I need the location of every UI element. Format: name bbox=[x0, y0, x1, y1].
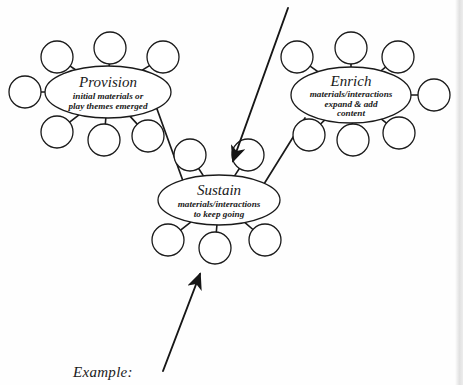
satellite-provision-sat-2[interactable] bbox=[94, 32, 126, 64]
satellite-sustain-sat-4[interactable] bbox=[199, 232, 231, 264]
diagram-page: Provisioninitial materials orplay themes… bbox=[0, 0, 463, 385]
example-caption: Example: bbox=[73, 364, 133, 381]
satellite-provision-sat-4[interactable] bbox=[9, 76, 41, 108]
node-title-sustain: Sustain bbox=[197, 182, 241, 198]
stem-provision-sat-1 bbox=[70, 66, 75, 70]
annotation-arrow-to-sustain-top bbox=[233, 8, 288, 161]
stem-sustain-sat-3 bbox=[181, 222, 191, 230]
satellite-provision-sat-6[interactable] bbox=[88, 124, 120, 156]
satellite-provision-sat-5[interactable] bbox=[41, 116, 73, 148]
stem-sustain-sat-5 bbox=[245, 223, 253, 230]
node-title-provision: Provision bbox=[78, 74, 137, 90]
stem-sustain-sat-4 bbox=[216, 225, 217, 232]
satellite-sustain-sat-2[interactable] bbox=[232, 139, 264, 171]
stem-enrich-sat-7 bbox=[381, 119, 386, 123]
node-title-enrich: Enrich bbox=[330, 73, 372, 89]
node-provision: Provisioninitial materials orplay themes… bbox=[9, 32, 179, 156]
satellite-enrich-sat-7[interactable] bbox=[383, 117, 415, 149]
stem-sustain-sat-1 bbox=[199, 168, 204, 175]
satellite-enrich-sat-1[interactable] bbox=[281, 41, 313, 73]
stem-provision-sat-7 bbox=[130, 116, 137, 124]
satellite-enrich-sat-3[interactable] bbox=[382, 41, 414, 73]
node-desc-provision-1: play themes emerged bbox=[67, 101, 148, 111]
stem-provision-sat-3 bbox=[142, 66, 149, 71]
stem-enrich-sat-1 bbox=[310, 66, 318, 71]
satellite-provision-sat-3[interactable] bbox=[147, 41, 179, 73]
node-sustain: Sustainmaterials/interactionsto keep goi… bbox=[152, 139, 281, 264]
satellite-sustain-sat-5[interactable] bbox=[249, 224, 281, 256]
stem-sustain-sat-2 bbox=[235, 168, 240, 175]
nodes-layer: Provisioninitial materials orplay themes… bbox=[9, 32, 450, 264]
satellite-enrich-sat-4[interactable] bbox=[418, 79, 450, 111]
annotation-arrow-example-to-sustain bbox=[163, 274, 200, 371]
node-desc-enrich-1: expand & add bbox=[324, 99, 377, 109]
node-desc-enrich-2: content bbox=[337, 108, 366, 118]
satellite-enrich-sat-6[interactable] bbox=[337, 124, 369, 156]
node-desc-provision-0: initial materials or bbox=[73, 91, 144, 101]
stem-provision-sat-6 bbox=[105, 118, 106, 124]
node-desc-sustain-0: materials/interactions bbox=[178, 199, 261, 209]
node-desc-sustain-1: to keep going bbox=[194, 209, 245, 219]
satellite-enrich-sat-2[interactable] bbox=[335, 32, 367, 64]
satellite-sustain-sat-1[interactable] bbox=[174, 139, 206, 171]
node-desc-enrich-0: materials/interactions bbox=[310, 89, 393, 99]
satellite-enrich-sat-5[interactable] bbox=[293, 119, 325, 151]
node-enrich: Enrichmaterials/interactionsexpand & add… bbox=[281, 32, 450, 156]
satellite-sustain-sat-3[interactable] bbox=[152, 224, 184, 256]
satellite-provision-sat-1[interactable] bbox=[41, 41, 73, 73]
satellite-provision-sat-7[interactable] bbox=[132, 120, 164, 152]
stem-provision-sat-5 bbox=[70, 115, 79, 122]
concept-map-canvas: Provisioninitial materials orplay themes… bbox=[0, 0, 463, 385]
